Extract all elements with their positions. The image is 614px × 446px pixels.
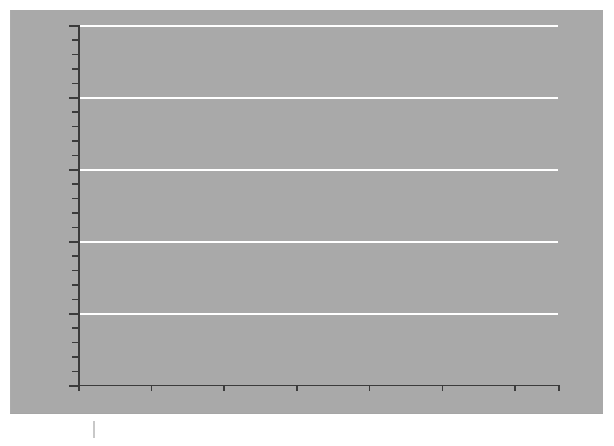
chart-figure [0,0,614,446]
caption-rule [93,421,95,438]
series-lines [0,0,614,446]
